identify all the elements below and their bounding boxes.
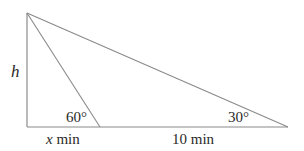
height-label: h: [11, 62, 20, 81]
near-sightline: [27, 13, 100, 127]
near-distance-label: x min: [45, 131, 80, 147]
triangle-diagram: h 60° 30° x min 10 min: [0, 0, 304, 151]
triangle-svg: h 60° 30° x min 10 min: [0, 0, 304, 151]
far-angle-label: 30°: [228, 109, 249, 125]
near-distance-unit: min: [53, 131, 81, 147]
near-angle-label: 60°: [66, 109, 87, 125]
far-distance-label: 10 min: [172, 131, 215, 147]
